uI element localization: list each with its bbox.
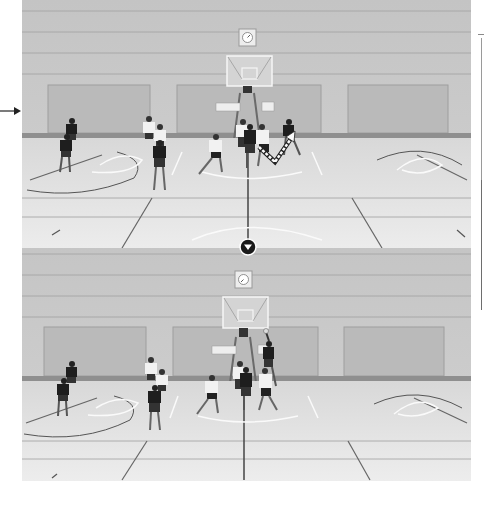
photo-bottom <box>22 248 471 500</box>
wall-clock <box>235 271 252 288</box>
page-edge-rule <box>481 180 482 310</box>
photo-top <box>22 0 471 248</box>
page-edge-tick <box>478 34 484 35</box>
wall-clock <box>239 29 256 46</box>
page-edge-rule <box>481 38 482 180</box>
down-arrow-icon <box>239 238 257 256</box>
pointer-arrow-icon <box>0 104 22 118</box>
